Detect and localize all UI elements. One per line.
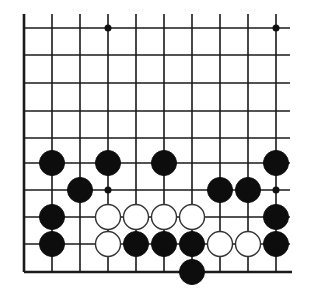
black-stone [152, 151, 177, 176]
black-stone [236, 178, 261, 203]
black-stone [208, 178, 233, 203]
star-point-icon [105, 25, 112, 32]
black-stone [40, 205, 65, 230]
black-stone [180, 260, 205, 285]
black-stone [124, 232, 149, 257]
black-stone [40, 151, 65, 176]
white-stone [152, 205, 177, 230]
white-stone [124, 205, 149, 230]
black-stone [264, 205, 289, 230]
star-point-icon [105, 187, 112, 194]
black-stone [68, 178, 93, 203]
white-stone [96, 205, 121, 230]
star-point-icon [273, 187, 280, 194]
star-point-icon [273, 25, 280, 32]
black-stone [180, 232, 205, 257]
go-board [0, 0, 319, 304]
black-stone [40, 232, 65, 257]
white-stone [180, 205, 205, 230]
black-stone [152, 232, 177, 257]
white-stone [208, 232, 233, 257]
white-stone [236, 232, 261, 257]
white-stone [96, 232, 121, 257]
black-stone [96, 151, 121, 176]
black-stone [264, 151, 289, 176]
black-stone [264, 232, 289, 257]
